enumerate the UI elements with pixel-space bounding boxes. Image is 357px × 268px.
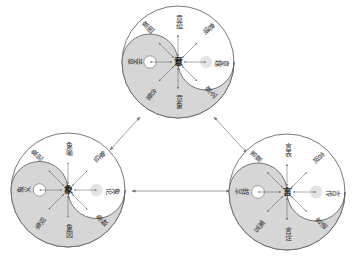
label-bottom-right-bottom: 言诠: [284, 227, 291, 241]
label-bottom-left-top: 象喻: [65, 142, 72, 156]
center-char-top: 意: [174, 58, 183, 67]
center-char-bottom-left: 象: [64, 186, 73, 195]
label-bottom-right-top: 言表: [284, 143, 291, 157]
label-bottom-right-left: 言辞: [235, 189, 249, 196]
label-bottom-left-bottom: 象図: [65, 224, 72, 238]
label-top-left: 意会: [127, 59, 141, 66]
label-top-bottom: 意象: [175, 95, 182, 109]
center-char-bottom-right: 言: [283, 188, 292, 197]
arrow-top-to-bottom-right: [214, 117, 247, 153]
label-top-top: 意蕴: [175, 15, 182, 29]
label-bottom-left-left: 象义: [17, 187, 31, 194]
label-bottom-right-right: 言传: [325, 189, 339, 196]
label-bottom-left-right: 象论: [105, 187, 119, 194]
yin-yang-triad-diagram: [0, 0, 357, 268]
label-top-right: 意趣: [215, 59, 229, 66]
arrow-top-to-bottom-left: [110, 117, 140, 150]
